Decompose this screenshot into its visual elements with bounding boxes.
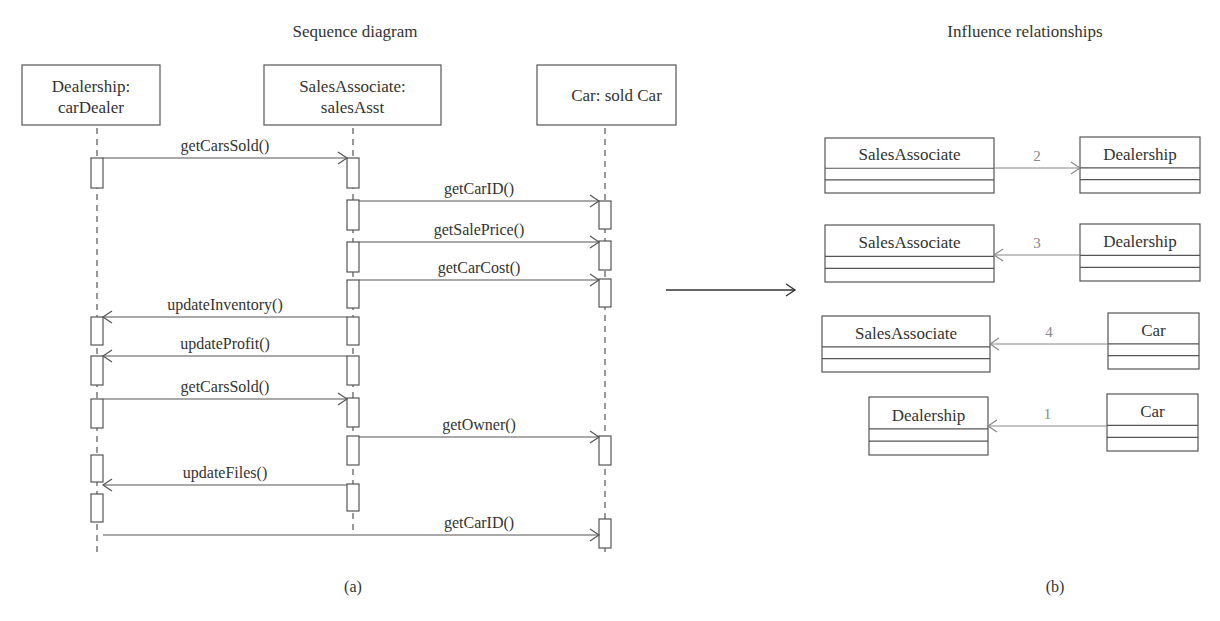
- activation-box: [599, 436, 611, 465]
- panel-a-caption: (a): [344, 578, 362, 596]
- message-label: getOwner(): [442, 416, 516, 434]
- message-label: updateFiles(): [183, 464, 267, 482]
- activation-box: [347, 356, 359, 385]
- message-label: updateInventory(): [167, 296, 283, 314]
- class-name: Car: [1141, 321, 1166, 340]
- class-name: SalesAssociate: [859, 233, 961, 252]
- class-name: SalesAssociate: [859, 145, 961, 164]
- panel-b-caption: (b): [1046, 578, 1065, 596]
- activation-box: [91, 455, 103, 482]
- diagram-canvas: Sequence diagram Influence relationships…: [0, 0, 1220, 621]
- message-arrow: updateFiles(): [103, 464, 347, 491]
- lifeline-instance: salesAsst: [321, 98, 385, 117]
- message-label: updateProfit(): [180, 335, 270, 353]
- message-arrow: getCarsSold(): [103, 137, 347, 164]
- activation-box: [91, 317, 103, 345]
- message-arrow: getCarID(): [359, 180, 599, 207]
- lifeline-name: Car: sold Car: [571, 86, 662, 105]
- message-arrow: getCarCost(): [359, 259, 599, 286]
- message-label: getCarID(): [444, 180, 514, 198]
- sequence-diagram: Dealership:carDealerSalesAssociate:sales…: [22, 65, 676, 552]
- message-label: getCarCost(): [438, 259, 521, 277]
- message-arrow: getSalePrice(): [359, 221, 599, 248]
- activation-box: [91, 399, 103, 428]
- influence-relation: SalesAssociateDealership2: [825, 137, 1200, 193]
- influence-relation: DealershipCar1: [869, 394, 1198, 455]
- class-name: Dealership: [1103, 232, 1177, 251]
- lifeline-car: Car: sold Car: [537, 65, 676, 552]
- class-name: SalesAssociate: [855, 324, 957, 343]
- message-label: getCarID(): [444, 514, 514, 532]
- lifeline-instance: carDealer: [58, 98, 124, 117]
- influence-relation: SalesAssociateCar4: [822, 313, 1199, 372]
- activation-box: [91, 158, 103, 188]
- activation-box: [347, 242, 359, 272]
- activation-box: [347, 280, 359, 308]
- activation-box: [599, 241, 611, 270]
- activation-box: [347, 317, 359, 345]
- class-name: Dealership: [1103, 145, 1177, 164]
- message-label: getSalePrice(): [434, 221, 525, 239]
- message-arrow: getCarsSold(): [103, 378, 347, 405]
- activation-box: [347, 200, 359, 230]
- activation-box: [91, 356, 103, 385]
- activation-box: [347, 436, 359, 465]
- relation-number: 1: [1044, 406, 1052, 422]
- activation-box: [599, 279, 611, 307]
- message-arrow: getOwner(): [359, 416, 599, 443]
- message-arrow: getCarID(): [103, 514, 599, 541]
- lifeline-name: SalesAssociate:: [299, 77, 406, 96]
- influence-relation: SalesAssociateDealership3: [825, 224, 1200, 282]
- message-label: getCarsSold(): [181, 378, 270, 396]
- message-arrow: updateProfit(): [103, 335, 347, 362]
- message-label: getCarsSold(): [181, 137, 270, 155]
- activation-box: [91, 494, 103, 522]
- activation-box: [347, 398, 359, 427]
- transition-arrow-icon: [666, 284, 795, 296]
- relation-number: 2: [1033, 148, 1041, 164]
- activation-box: [599, 201, 611, 229]
- panel-a-title: Sequence diagram: [292, 22, 417, 41]
- lifeline-name: Dealership:: [52, 77, 130, 96]
- class-name: Car: [1140, 402, 1165, 421]
- activation-box: [347, 158, 359, 188]
- panel-b-title: Influence relationships: [947, 22, 1102, 41]
- relation-number: 4: [1045, 324, 1053, 340]
- influence-relationships: SalesAssociateDealership2SalesAssociateD…: [822, 137, 1200, 455]
- activation-box: [347, 484, 359, 511]
- activation-box: [599, 519, 611, 548]
- relation-number: 3: [1033, 235, 1041, 251]
- class-name: Dealership: [892, 406, 966, 425]
- message-arrow: updateInventory(): [103, 296, 347, 323]
